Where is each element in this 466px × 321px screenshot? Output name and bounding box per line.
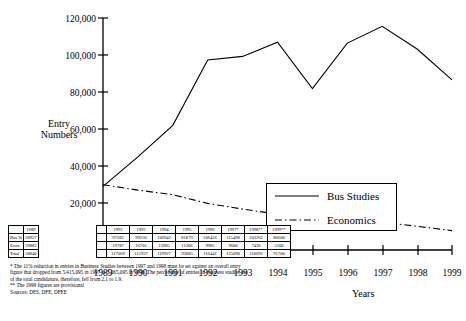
chart-legend: Bus Studies Economics: [266, 183, 397, 231]
table-cell-clipped: [97, 226, 107, 234]
table-cell: 16701: [130, 242, 153, 250]
x-tick-label: 1999: [435, 268, 466, 278]
table-header-cell: 1992: [107, 226, 130, 234]
table-header-cell: 1993: [130, 226, 153, 234]
footnote-line: Sources: DES, DFE, DFEE: [10, 289, 300, 295]
table-cell-clipped: [97, 234, 107, 242]
table-cell: 125098: [222, 250, 245, 258]
table-cell: 110692: [245, 250, 268, 258]
x-axis-title: Years: [352, 288, 412, 299]
table-cell: 115498: [222, 234, 245, 242]
x-tick-label: 1998: [401, 268, 435, 278]
table-cell: 103262: [245, 234, 268, 242]
table-cell: 5100: [268, 242, 291, 250]
table-header-cell: 1989: [24, 226, 38, 234]
table-row: 19787 16701 13985 11206 9985 9600 7430 5…: [97, 242, 291, 250]
table-cell: 86600: [268, 234, 291, 242]
table-cell: 58840: [24, 250, 38, 258]
table-cell: 116441: [199, 250, 222, 258]
table-cell: 7430: [245, 242, 268, 250]
table-cell: 81879: [176, 234, 199, 242]
table-header-cell: 1999**: [268, 226, 291, 234]
table-row-label: Econ: [9, 242, 24, 250]
table-cell: 9600: [222, 242, 245, 250]
legend-label-bus-studies: Bus Studies: [321, 190, 379, 202]
legend-swatch-solid-icon: [273, 189, 321, 203]
table-cell: 91700: [268, 250, 291, 258]
x-tick-label: 1997: [366, 268, 400, 278]
footnotes-block: * The 11% reduction in entries in Busine…: [10, 263, 300, 295]
table-cell: 115937: [130, 250, 153, 258]
data-table-main: 1992 1993 1994 1995 1996 1997* 1998** 19…: [96, 225, 291, 258]
table-cell: 93085: [176, 250, 199, 258]
table-cell: 13985: [153, 242, 176, 250]
table-header-cell: 1998**: [245, 226, 268, 234]
table-cell: 106942: [153, 234, 176, 242]
x-tick-label: 1996: [331, 268, 365, 278]
table-row: Total 58840: [9, 250, 39, 258]
table-row-label: Bus St: [9, 234, 24, 242]
table-cell: 28957: [24, 234, 38, 242]
table-row-label: Total: [9, 250, 24, 258]
table-header-cell: 1997*: [222, 226, 245, 234]
table-cell: 11206: [176, 242, 199, 250]
table-cell-clipped: [97, 250, 107, 258]
x-tick-label: 1995: [296, 268, 330, 278]
table-header-cell: 1995: [176, 226, 199, 234]
table-header-cell: 1996: [199, 226, 222, 234]
table-cell: 29883: [24, 242, 38, 250]
table-cell: 119927: [153, 250, 176, 258]
table-row: Bus St 28957: [9, 234, 39, 242]
table-cell: 99236: [130, 234, 153, 242]
table-cell-clipped: [97, 242, 107, 250]
table-cell: 97282: [107, 234, 130, 242]
table-corner-cell: [9, 226, 24, 234]
table-header-cell: 1994: [153, 226, 176, 234]
table-row: 1992 1993 1994 1995 1996 1997* 1998** 19…: [97, 226, 291, 234]
table-cell: 106456: [199, 234, 222, 242]
table-row: 117069 115937 119927 93085 116441 125098…: [97, 250, 291, 258]
table-cell: 117069: [107, 250, 130, 258]
table-row: 1989: [9, 226, 39, 234]
data-table-1989: 1989 Bus St 28957 Econ 29883 Total 58840: [8, 225, 39, 258]
legend-label-economics: Economics: [321, 214, 376, 226]
table-cell: 19787: [107, 242, 130, 250]
table-cell: 9985: [199, 242, 222, 250]
table-row: Econ 29883: [9, 242, 39, 250]
series-line-bus-studies: [103, 26, 452, 186]
table-row: 97282 99236 106942 81879 106456 115498 1…: [97, 234, 291, 242]
legend-item-bus-studies: Bus Studies: [267, 184, 396, 208]
